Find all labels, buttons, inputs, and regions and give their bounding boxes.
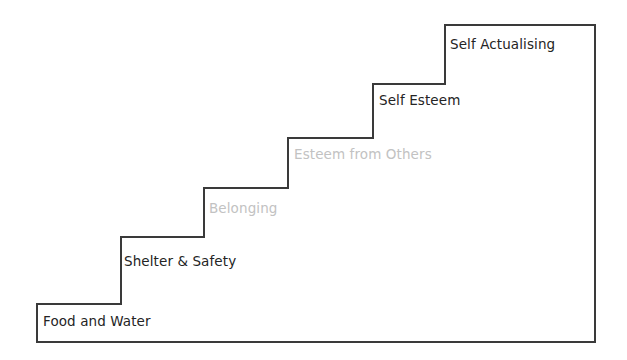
step-label-belonging: Belonging [209,202,277,216]
step-label-shelter-and-safety: Shelter & Safety [124,255,236,269]
step-label-esteem-from-others: Esteem from Others [294,148,432,162]
step-label-self-actualising: Self Actualising [450,38,555,52]
step-label-food-and-water: Food and Water [43,315,151,329]
staircase-outline-svg [0,0,627,360]
diagram-background [0,0,627,360]
staircase-diagram: Food and Water Shelter & Safety Belongin… [0,0,627,360]
step-label-self-esteem: Self Esteem [379,94,460,108]
